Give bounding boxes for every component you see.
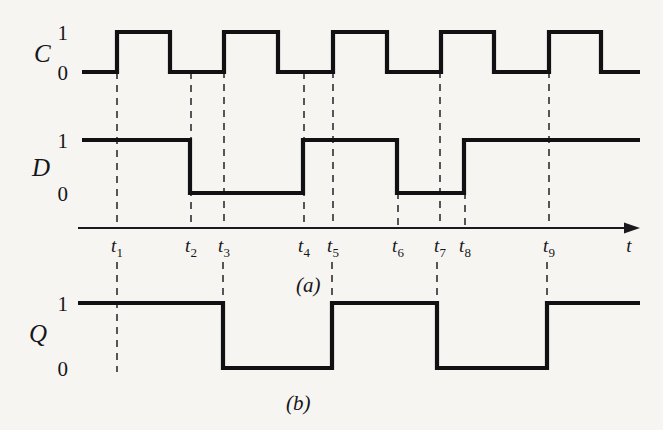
signal-name-d: D: [31, 154, 50, 181]
panel-label-a: (a): [296, 273, 321, 297]
waveforms-group: [78, 32, 640, 368]
time-tick-label-t5: t5: [327, 235, 339, 260]
level-label-high-d: 1: [58, 129, 69, 153]
time-tick-label-t6: t6: [392, 235, 404, 260]
signal-name-q: Q: [29, 320, 47, 347]
time-axis-group: [78, 223, 640, 234]
time-tick-label-t4: t4: [298, 235, 310, 260]
time-axis-label: t: [626, 235, 632, 256]
time-tick-label-t3: t3: [218, 235, 230, 260]
level-label-high-c: 1: [58, 21, 69, 45]
timing-diagram-figure: C10D10Q10t1t2t3t4t5t6t7t8t9t(a)(b): [0, 0, 663, 430]
time-tick-label-t2: t2: [185, 235, 197, 260]
time-axis-arrow-icon: [624, 223, 640, 234]
level-label-low-c: 0: [58, 61, 69, 85]
time-tick-label-t7: t7: [434, 235, 446, 260]
waveform-d: [82, 140, 640, 193]
panel-label-b: (b): [286, 391, 311, 415]
time-tick-label-t8: t8: [459, 235, 471, 260]
level-label-high-q: 1: [58, 292, 69, 316]
waveform-q: [78, 303, 640, 368]
waveform-c: [82, 32, 640, 72]
level-label-low-q: 0: [58, 357, 69, 381]
time-tick-label-t1: t1: [111, 235, 123, 260]
time-tick-label-t9: t9: [543, 235, 555, 260]
level-label-low-d: 0: [58, 182, 69, 206]
signal-name-c: C: [34, 40, 51, 67]
timing-diagram-canvas: C10D10Q10t1t2t3t4t5t6t7t8t9t(a)(b): [0, 0, 663, 430]
